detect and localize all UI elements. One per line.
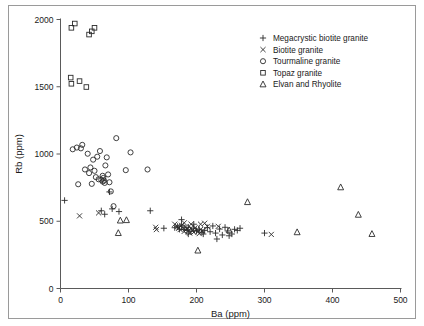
point-tourmaline-granite-21 <box>104 155 109 160</box>
y-tick-label-1000: 1000 <box>35 149 54 159</box>
point-topaz-granite-6 <box>69 81 74 86</box>
legend-marker-triangle <box>260 81 266 87</box>
y-tick-label-2000: 2000 <box>35 15 54 25</box>
point-biotite-granite-0 <box>77 213 82 218</box>
point-elvan-and-rhyolite-6 <box>294 229 300 235</box>
point-tourmaline-granite-27-circle <box>123 168 128 173</box>
legend-marker-x <box>260 47 265 52</box>
point-biotite-granite-30 <box>269 232 274 237</box>
legend-entry-tourmaline-granite: Tourmaline granite <box>260 57 340 66</box>
point-megacrystic-biotite-granite-28 <box>222 224 228 230</box>
series-topaz-granite <box>68 21 96 89</box>
y-tick-label-0: 0 <box>49 284 54 294</box>
point-elvan-and-rhyolite-1 <box>117 217 123 223</box>
x-tick-label-0: 0 <box>58 295 63 305</box>
point-elvan-and-rhyolite-4-triangle <box>226 227 232 233</box>
point-elvan-and-rhyolite-7-triangle <box>338 184 344 190</box>
point-tourmaline-granite-29-circle <box>145 167 150 172</box>
point-topaz-granite-8-square <box>84 85 89 90</box>
legend-entry-biotite-granite: Biotite granite <box>260 46 323 55</box>
point-elvan-and-rhyolite-9-triangle <box>369 231 375 237</box>
point-elvan-and-rhyolite-3 <box>195 247 201 253</box>
plot-canvas: 05001000150020000100200300400500Ba (ppm)… <box>0 0 424 326</box>
point-megacrystic-biotite-granite-27 <box>219 232 225 238</box>
point-tourmaline-granite-14 <box>97 148 102 153</box>
series-megacrystic-biotite-granite <box>61 189 267 242</box>
legend-label-2: Tourmaline granite <box>273 57 341 66</box>
point-megacrystic-biotite-granite-3 <box>102 211 108 217</box>
point-tourmaline-granite-7 <box>86 171 91 176</box>
legend-marker-triangle-triangle <box>260 81 266 87</box>
series-tourmaline-granite <box>70 136 150 209</box>
point-tourmaline-granite-23-circle <box>107 180 112 185</box>
point-megacrystic-biotite-granite-35 <box>261 230 267 236</box>
point-elvan-and-rhyolite-4 <box>226 227 232 233</box>
legend-marker-circle-circle <box>260 59 265 64</box>
point-topaz-granite-5-square <box>68 75 73 80</box>
legend-marker-plus <box>260 35 266 41</box>
point-elvan-and-rhyolite-1-triangle <box>117 217 123 223</box>
y-tick-label-1500: 1500 <box>35 82 54 92</box>
legend-label-4: Elvan and Rhyolite <box>273 80 342 89</box>
point-tourmaline-granite-29 <box>145 167 150 172</box>
point-elvan-and-rhyolite-2 <box>123 217 129 223</box>
x-tick-label-100: 100 <box>121 295 135 305</box>
point-elvan-and-rhyolite-8 <box>355 211 361 217</box>
point-tourmaline-granite-2-circle <box>76 182 81 187</box>
point-tourmaline-granite-7-circle <box>86 171 91 176</box>
point-tourmaline-granite-22-circle <box>106 172 111 177</box>
x-tick-label-400: 400 <box>325 295 339 305</box>
point-tourmaline-granite-20-circle <box>103 163 108 168</box>
point-megacrystic-biotite-granite-5 <box>116 208 122 214</box>
legend-entry-megacrystic-biotite-granite: Megacrystic biotite granite <box>260 34 369 43</box>
point-tourmaline-granite-23 <box>107 180 112 185</box>
x-tick-group: 0100200300400500 <box>58 289 408 305</box>
x-tick-label-300: 300 <box>257 295 271 305</box>
point-tourmaline-granite-9-circle <box>89 181 94 186</box>
point-elvan-and-rhyolite-9 <box>369 231 375 237</box>
point-tourmaline-granite-28 <box>128 150 133 155</box>
point-elvan-and-rhyolite-5-triangle <box>245 199 251 205</box>
point-tourmaline-granite-26-circle <box>114 136 119 141</box>
point-elvan-and-rhyolite-8-triangle <box>355 211 361 217</box>
point-tourmaline-granite-26 <box>114 136 119 141</box>
point-tourmaline-granite-30 <box>92 168 97 173</box>
point-topaz-granite-7-square <box>77 79 82 84</box>
point-megacrystic-biotite-granite-25 <box>214 236 220 242</box>
point-elvan-and-rhyolite-0-triangle <box>115 230 121 236</box>
point-elvan-and-rhyolite-6-triangle <box>294 229 300 235</box>
legend-label-1: Biotite granite <box>273 46 324 55</box>
point-tourmaline-granite-22 <box>106 172 111 177</box>
point-megacrystic-biotite-granite-7 <box>161 225 167 231</box>
point-megacrystic-biotite-granite-6 <box>147 208 153 214</box>
point-elvan-and-rhyolite-2-triangle <box>123 217 129 223</box>
point-megacrystic-biotite-granite-32 <box>231 226 237 232</box>
point-tourmaline-granite-21-circle <box>104 155 109 160</box>
point-tourmaline-granite-12-circle <box>95 154 100 159</box>
scatter-plot-figure: 05001000150020000100200300400500Ba (ppm)… <box>0 0 424 326</box>
x-axis-title: Ba (ppm) <box>211 308 250 319</box>
point-elvan-and-rhyolite-5 <box>245 199 251 205</box>
point-elvan-and-rhyolite-0 <box>115 230 121 236</box>
point-elvan-and-rhyolite-7 <box>338 184 344 190</box>
legend: Megacrystic biotite graniteBiotite grani… <box>260 34 369 89</box>
point-tourmaline-granite-12 <box>95 154 100 159</box>
point-tourmaline-granite-27 <box>123 168 128 173</box>
point-tourmaline-granite-20 <box>103 163 108 168</box>
legend-marker-circle <box>260 59 265 64</box>
y-axis-title: Rb (ppm) <box>13 134 24 174</box>
point-tourmaline-granite-2 <box>76 182 81 187</box>
point-megacrystic-biotite-granite-22 <box>207 229 213 235</box>
y-tick-label-500: 500 <box>39 216 53 226</box>
point-topaz-granite-8 <box>84 85 89 90</box>
point-tourmaline-granite-28-circle <box>128 150 133 155</box>
legend-label-0: Megacrystic biotite granite <box>273 34 369 43</box>
legend-entry-topaz-granite: Topaz granite <box>261 69 323 78</box>
point-tourmaline-granite-9 <box>89 181 94 186</box>
legend-label-3: Topaz granite <box>273 69 323 78</box>
x-tick-label-200: 200 <box>189 295 203 305</box>
point-tourmaline-granite-6-circle <box>85 151 90 156</box>
point-megacrystic-biotite-granite-0 <box>61 197 67 203</box>
point-biotite-granite-24 <box>182 220 187 225</box>
point-topaz-granite-7 <box>77 79 82 84</box>
